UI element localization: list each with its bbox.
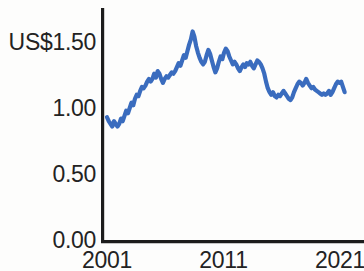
x-tick-label-1: 2011	[199, 247, 247, 271]
x-tick-label-0: 2001	[82, 247, 132, 271]
y-tick-label-3: US$1.50	[9, 29, 96, 55]
y-axis-tick-labels: 0.00 0.50 1.00 US$1.50	[9, 29, 96, 253]
x-tick-label-2: 2021	[315, 247, 364, 271]
y-tick-label-1: 0.50	[52, 161, 96, 187]
chart-container: 0.00 0.50 1.00 US$1.50 2001 2011 2021	[0, 0, 364, 271]
line-chart: 0.00 0.50 1.00 US$1.50 2001 2011 2021	[0, 0, 364, 271]
x-axis-tick-labels: 2001 2011 2021	[82, 247, 364, 271]
data-series-line	[107, 31, 345, 126]
y-tick-label-2: 1.00	[52, 95, 96, 121]
